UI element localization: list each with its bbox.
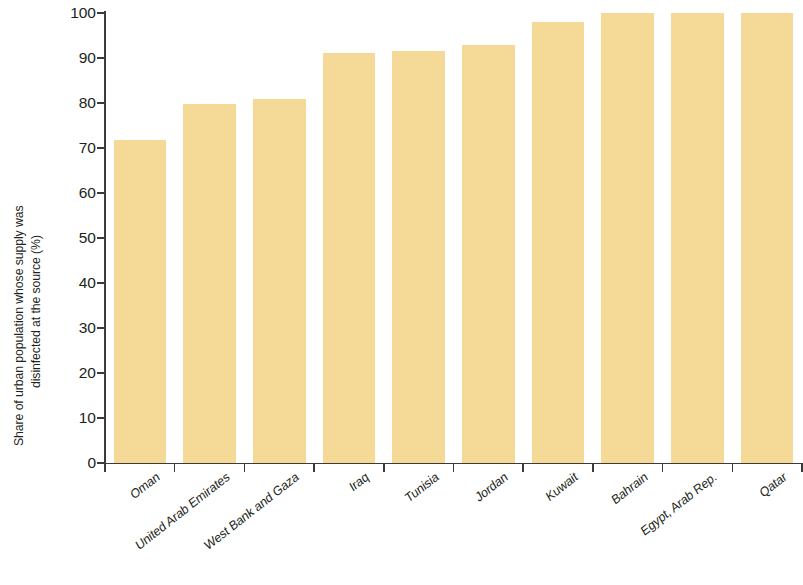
x-axis-tick xyxy=(522,463,524,472)
x-axis-tick-label: Oman xyxy=(127,470,162,502)
x-axis-tick xyxy=(732,463,734,472)
x-axis-tick xyxy=(662,463,664,472)
bar xyxy=(601,13,654,463)
y-axis-tick xyxy=(97,327,105,329)
y-axis-tick-label: 50 xyxy=(79,230,96,246)
x-axis-tick xyxy=(453,463,455,472)
y-axis-tick xyxy=(97,12,105,14)
y-axis-tick-label: 10 xyxy=(79,410,96,426)
bar xyxy=(253,99,306,463)
y-axis-tick-label: 20 xyxy=(79,365,96,381)
y-axis-title-line-1: Share of urban population whose supply w… xyxy=(12,205,26,446)
bar xyxy=(323,53,376,463)
y-axis-tick-label: 100 xyxy=(70,5,96,21)
bar xyxy=(462,45,515,463)
y-axis-tick xyxy=(97,57,105,59)
bar-chart: Share of urban population whose supply w… xyxy=(0,0,803,585)
x-axis-tick-label: Bahrain xyxy=(608,470,650,507)
y-axis-tick-label: 70 xyxy=(79,140,96,156)
y-axis-tick-label: 90 xyxy=(79,50,96,66)
y-axis-tick xyxy=(97,192,105,194)
x-axis-tick xyxy=(313,463,315,472)
y-axis-tick xyxy=(97,147,105,149)
x-axis-tick xyxy=(244,463,246,472)
y-axis-title-line-2: disinfected at the source (%) xyxy=(29,235,43,388)
x-axis-tick xyxy=(592,463,594,472)
bar xyxy=(392,51,445,463)
y-axis-title: Share of urban population whose supply w… xyxy=(0,0,58,470)
y-axis-tick-label: 30 xyxy=(79,320,96,336)
x-axis-tick-label: Iraq xyxy=(346,470,371,494)
x-axis-tick-label: Kuwait xyxy=(543,470,581,504)
bar xyxy=(114,140,167,463)
plot-area xyxy=(105,13,802,463)
x-axis-tick-label: Jordan xyxy=(473,470,511,504)
bar xyxy=(183,104,236,463)
x-axis-tick xyxy=(174,463,176,472)
y-axis-tick xyxy=(97,237,105,239)
x-axis-tick-label: Qatar xyxy=(757,470,790,500)
y-axis-tick-label: 60 xyxy=(79,185,96,201)
y-axis-tick-label: 0 xyxy=(87,455,96,471)
bar xyxy=(532,22,585,463)
x-axis-tick xyxy=(104,463,106,472)
x-axis-tick xyxy=(383,463,385,472)
y-axis-tick-label: 40 xyxy=(79,275,96,291)
bar xyxy=(671,13,724,463)
y-axis-tick xyxy=(97,282,105,284)
y-axis-tick xyxy=(97,417,105,419)
y-axis-tick-label: 80 xyxy=(79,95,96,111)
bar xyxy=(741,13,794,463)
y-axis-tick xyxy=(97,372,105,374)
y-axis-tick xyxy=(97,102,105,104)
x-axis-tick-label: Tunisia xyxy=(402,470,441,505)
